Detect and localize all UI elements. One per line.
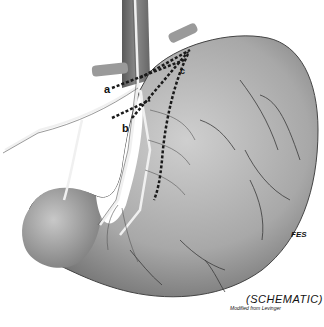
- right-pad: [167, 22, 198, 44]
- figure-credit: Modified from Levinger: [230, 305, 281, 311]
- artist-signature: FES: [291, 230, 307, 239]
- label-b: b: [122, 122, 129, 134]
- stomach-drawing: [0, 0, 324, 327]
- stomach-illustration: a b c FES (SCHEMATIC) Modified from Levi…: [0, 0, 324, 327]
- figure-caption: (SCHEMATIC): [246, 293, 323, 305]
- label-a: a: [104, 83, 110, 95]
- label-c: c: [180, 66, 185, 76]
